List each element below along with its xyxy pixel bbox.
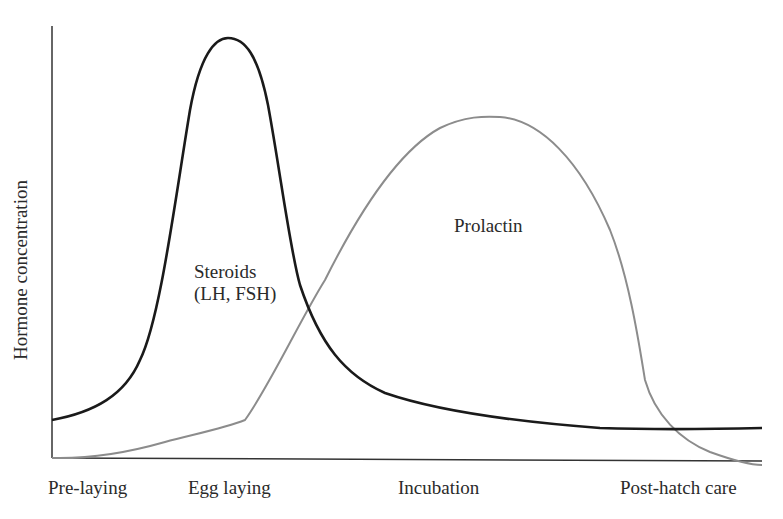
x-tick-pre-laying: Pre-laying xyxy=(48,478,127,497)
x-tick-post-hatch-care: Post-hatch care xyxy=(620,478,737,497)
y-axis-label: Hormone concentration xyxy=(10,180,32,360)
x-tick-egg-laying: Egg laying xyxy=(188,478,271,497)
steroids-label-line2: (LH, FSH) xyxy=(194,284,276,303)
x-axis xyxy=(52,458,762,461)
prolactin-label: Prolactin xyxy=(454,216,523,235)
chart-canvas xyxy=(0,0,783,519)
steroids-label-line1: Steroids xyxy=(194,262,256,281)
prolactin-curve xyxy=(52,117,762,465)
steroids-curve xyxy=(52,38,762,429)
x-tick-incubation: Incubation xyxy=(398,478,479,497)
